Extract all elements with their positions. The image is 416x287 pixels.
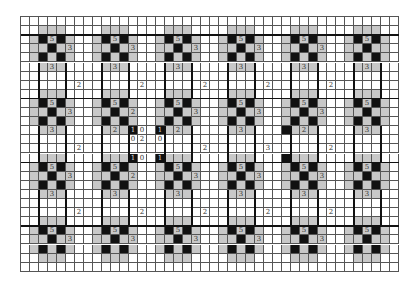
grid-cell[interactable] [354, 172, 363, 181]
grid-cell[interactable] [48, 53, 57, 62]
grid-cell[interactable] [282, 17, 291, 26]
grid-cell[interactable] [300, 245, 309, 254]
grid-cell[interactable] [129, 190, 138, 199]
grid-cell[interactable] [183, 172, 192, 181]
grid-cell[interactable] [102, 81, 111, 90]
grid-cell[interactable] [93, 53, 102, 62]
grid-cell[interactable] [66, 99, 75, 108]
grid-cell[interactable] [192, 199, 201, 208]
grid-cell[interactable] [363, 245, 372, 254]
grid-cell[interactable] [75, 72, 84, 81]
grid-cell[interactable] [201, 263, 210, 272]
grid-cell[interactable] [363, 72, 372, 81]
grid-cell[interactable] [210, 35, 219, 44]
grid-cell[interactable] [75, 226, 84, 235]
grid-cell[interactable] [381, 144, 390, 153]
grid-cell[interactable] [102, 208, 111, 217]
grid-cell[interactable] [228, 199, 237, 208]
grid-cell[interactable] [255, 190, 264, 199]
grid-cell[interactable] [21, 53, 30, 62]
grid-cell[interactable] [30, 181, 39, 190]
grid-cell[interactable] [165, 126, 174, 135]
shaded-cell[interactable] [291, 226, 300, 235]
shaded-cell[interactable] [354, 181, 363, 190]
grid-cell[interactable] [84, 63, 93, 72]
shaded-cell[interactable] [372, 99, 381, 108]
grid-cell[interactable] [300, 144, 309, 153]
grid-cell[interactable] [255, 99, 264, 108]
clue-cell[interactable]: 0 [129, 135, 138, 144]
grid-cell[interactable] [165, 63, 174, 72]
shaded-cell[interactable] [102, 53, 111, 62]
shaded-cell[interactable] [183, 99, 192, 108]
grid-cell[interactable] [354, 63, 363, 72]
grid-cell[interactable] [102, 254, 111, 263]
grid-cell[interactable] [192, 17, 201, 26]
clue-cell[interactable]: 3 [66, 44, 75, 53]
grid-cell[interactable] [363, 181, 372, 190]
grid-cell[interactable] [138, 17, 147, 26]
grid-cell[interactable] [228, 44, 237, 53]
grid-cell[interactable] [318, 135, 327, 144]
shaded-cell[interactable] [57, 35, 66, 44]
grid-cell[interactable] [255, 72, 264, 81]
grid-cell[interactable] [93, 35, 102, 44]
grid-cell[interactable] [138, 235, 147, 244]
clue-cell[interactable]: 0 [138, 126, 147, 135]
grid-cell[interactable] [192, 135, 201, 144]
grid-cell[interactable] [84, 35, 93, 44]
grid-cell[interactable] [282, 163, 291, 172]
shaded-cell[interactable] [165, 53, 174, 62]
grid-cell[interactable] [372, 263, 381, 272]
grid-cell[interactable] [336, 190, 345, 199]
grid-cell[interactable] [327, 254, 336, 263]
grid-cell[interactable] [156, 53, 165, 62]
grid-cell[interactable] [264, 53, 273, 62]
shaded-cell[interactable] [372, 35, 381, 44]
grid-cell[interactable] [228, 190, 237, 199]
grid-cell[interactable] [228, 135, 237, 144]
clue-cell[interactable]: 5 [174, 163, 183, 172]
grid-cell[interactable] [327, 135, 336, 144]
grid-cell[interactable] [336, 53, 345, 62]
grid-cell[interactable] [345, 163, 354, 172]
grid-cell[interactable] [66, 53, 75, 62]
grid-cell[interactable] [390, 226, 399, 235]
grid-cell[interactable] [381, 81, 390, 90]
grid-cell[interactable] [318, 144, 327, 153]
shaded-cell[interactable] [309, 245, 318, 254]
grid-cell[interactable] [66, 63, 75, 72]
shaded-cell[interactable] [372, 226, 381, 235]
grid-cell[interactable] [138, 35, 147, 44]
grid-cell[interactable] [84, 99, 93, 108]
grid-cell[interactable] [390, 81, 399, 90]
grid-cell[interactable] [246, 235, 255, 244]
grid-cell[interactable] [210, 181, 219, 190]
grid-cell[interactable] [48, 181, 57, 190]
grid-cell[interactable] [336, 108, 345, 117]
grid-cell[interactable] [30, 99, 39, 108]
grid-cell[interactable] [318, 208, 327, 217]
grid-cell[interactable] [66, 144, 75, 153]
grid-cell[interactable] [345, 181, 354, 190]
grid-cell[interactable] [363, 263, 372, 272]
grid-cell[interactable] [120, 108, 129, 117]
grid-cell[interactable] [327, 172, 336, 181]
grid-cell[interactable] [273, 53, 282, 62]
grid-cell[interactable] [354, 44, 363, 53]
grid-cell[interactable] [381, 190, 390, 199]
grid-cell[interactable] [165, 190, 174, 199]
grid-cell[interactable] [300, 263, 309, 272]
grid-cell[interactable] [336, 226, 345, 235]
grid-cell[interactable] [156, 44, 165, 53]
grid-cell[interactable] [120, 44, 129, 53]
grid-cell[interactable] [282, 117, 291, 126]
grid-cell[interactable] [48, 254, 57, 263]
grid-cell[interactable] [246, 108, 255, 117]
grid-cell[interactable] [30, 117, 39, 126]
grid-cell[interactable] [246, 263, 255, 272]
grid-cell[interactable] [93, 99, 102, 108]
clue-cell[interactable]: 5 [300, 35, 309, 44]
grid-cell[interactable] [345, 53, 354, 62]
grid-cell[interactable] [264, 63, 273, 72]
